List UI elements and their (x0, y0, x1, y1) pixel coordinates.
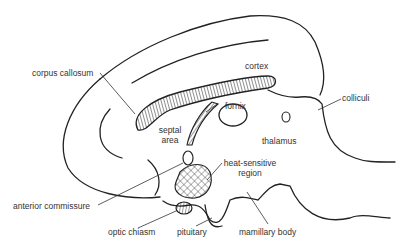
label-anterior-commissure: anterior commissure (13, 201, 90, 211)
label-thalamus: thalamus (262, 136, 297, 146)
small-nucleus (282, 112, 290, 122)
label-cortex: cortex (245, 61, 268, 71)
heat-sensitive-region-shape (175, 165, 211, 199)
label-heat-sensitive-2: region (222, 168, 278, 178)
optic-chiasm-shape (176, 202, 192, 214)
outer-arc-left (63, 79, 160, 198)
brainstem-upper (268, 90, 395, 162)
label-colliculi: colliculi (342, 93, 369, 103)
leader-mamillary (247, 192, 268, 224)
brain-outline-drawing (0, 0, 411, 251)
brain-diagram: corpus callosum cortex fornix colliculi … (0, 0, 411, 251)
label-septal-area-2: area (155, 135, 185, 145)
fornix-shape (187, 102, 218, 145)
label-fornix: fornix (225, 101, 246, 111)
label-mamillary-body: mamillary body (239, 227, 296, 237)
anterior-commissure-shape (183, 151, 193, 165)
inner-arc-left (100, 109, 122, 158)
label-pituitary: pituitary (177, 227, 207, 237)
pituitary-outline (205, 205, 222, 227)
outer-cortex-contour (100, 16, 324, 95)
corpus-callosum-shape (136, 76, 275, 130)
label-heat-sensitive-1: heat-sensitive (222, 158, 278, 168)
label-septal-area-1: septal (155, 125, 185, 135)
leader-optic-chiasm (138, 211, 176, 228)
label-corpus-callosum: corpus callosum (32, 68, 93, 78)
leader-corpus-callosum (100, 73, 135, 114)
label-optic-chiasm: optic chiasm (108, 227, 155, 237)
leader-anterior-commissure (98, 163, 183, 205)
